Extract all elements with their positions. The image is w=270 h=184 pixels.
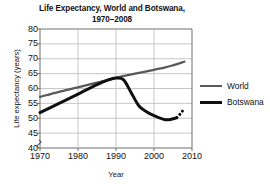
chart-legend: WorldBotswana [200, 78, 270, 110]
legend-item: World [200, 78, 270, 94]
series-line-botswana [40, 78, 177, 120]
legend-line-icon [200, 101, 222, 104]
legend-item-label: World [227, 81, 249, 91]
legend-line-icon [200, 85, 222, 87]
legend-item: Botswana [200, 94, 270, 110]
series-line-botswana-projected [177, 108, 185, 117]
chart-container: Life Expectancy, World and Botswana, 197… [0, 0, 270, 184]
legend-item-label: Botswana [227, 97, 264, 107]
